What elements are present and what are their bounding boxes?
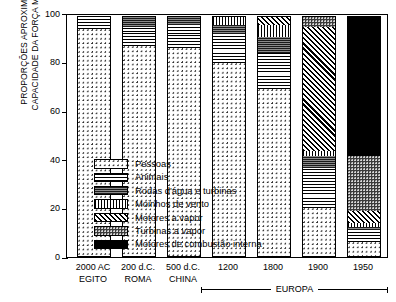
y-tick-mark-0: [62, 258, 68, 259]
bar-segment-animais: [168, 25, 200, 49]
legend-label-combustao-interna: Motores de combustão interna: [135, 239, 262, 249]
y-axis-title-line-1: PROPORÇÕES APROXIMADAS DA: [19, 0, 31, 105]
y-axis-title: PROPORÇÕES APROXIMADAS DA CAPACIDADE DA …: [13, 0, 47, 155]
plot-inner: Pessoas Animais Rodas d'água e turbinas …: [67, 15, 387, 257]
legend-item-pessoas: Pessoas: [94, 157, 340, 170]
y-tick-label-0: 0: [30, 253, 60, 262]
y-tick-label-20: 20: [30, 204, 60, 213]
legend-label-rodas: Rodas d'água e turbinas: [135, 186, 236, 196]
europa-label: EUROPA: [271, 284, 318, 294]
x-label-1950: 1950: [326, 262, 396, 274]
legend-swatch-pessoas-icon: [94, 159, 128, 168]
bar-segment-motores-vapor: [258, 17, 290, 24]
y-tick-label-60: 60: [30, 107, 60, 116]
y-tick-label-100: 100: [30, 10, 60, 19]
bar-segment-animais: [258, 53, 290, 89]
legend-item-moinhos: Moinhos de vento: [94, 197, 340, 210]
legend-swatch-moinhos-icon: [94, 199, 128, 208]
bar-segment-animais: [348, 230, 380, 242]
legend-item-rodas: Rodas d'água e turbinas: [94, 184, 340, 197]
bar-segment-rodas: [348, 227, 380, 229]
bar-segment-pessoas: [348, 242, 380, 256]
bar-segment-animais: [123, 27, 155, 46]
legend-label-moinhos: Moinhos de vento: [135, 199, 209, 209]
legend-label-pessoas: Pessoas: [135, 159, 171, 169]
y-tick-label-80: 80: [30, 58, 60, 67]
bar-segment-animais: [78, 17, 110, 29]
bar-segment-animais: [213, 34, 245, 63]
legend-label-animais: Animais: [135, 172, 168, 182]
bar-segment-rodas: [168, 17, 200, 24]
bar-segment-moinhos: [348, 223, 380, 228]
bar-segment-moinhos: [258, 25, 290, 37]
legend-item-animais: Animais: [94, 171, 340, 184]
europa-label-wrap: EUROPA: [201, 283, 388, 295]
bar-segment-motores-vapor: [303, 27, 335, 151]
bar-segment-turbinas-vapor: [303, 17, 335, 27]
bar-1950: [347, 16, 381, 257]
legend: Pessoas Animais Rodas d'água e turbinas …: [94, 155, 340, 251]
legend-item-turbinas-vapor: Turbinas a vapor: [94, 224, 340, 237]
bar-segment-turbinas-vapor: [348, 156, 380, 211]
bar-segment-rodas: [123, 17, 155, 27]
legend-swatch-motores-vapor-icon: [94, 213, 128, 222]
x-label-1950-line1: 1950: [326, 262, 396, 274]
y-tick-label-40: 40: [30, 156, 60, 165]
legend-item-motores-vapor: Motores a vapor: [94, 211, 340, 224]
legend-swatch-combustao-interna-icon: [94, 240, 128, 249]
legend-label-turbinas-vapor: Turbinas a vapor: [135, 226, 205, 236]
legend-swatch-turbinas-vapor-icon: [94, 226, 128, 235]
bar-segment-motores-vapor: [348, 211, 380, 223]
legend-swatch-rodas-icon: [94, 186, 128, 195]
bar-segment-combustao-interna: [348, 17, 380, 155]
europa-group-annotation: EUROPA: [66, 283, 388, 297]
legend-label-motores-vapor: Motores a vapor: [135, 213, 203, 223]
bar-segment-moinhos: [213, 17, 245, 24]
legend-swatch-animais-icon: [94, 173, 128, 182]
bar-segment-rodas: [213, 25, 245, 35]
bar-segment-rodas: [258, 37, 290, 54]
plot-area: Pessoas Animais Rodas d'água e turbinas …: [66, 14, 388, 258]
legend-item-combustao-interna: Motores de combustão interna: [94, 238, 340, 251]
stacked-bar-chart: PROPORÇÕES APROXIMADAS DA CAPACIDADE DA …: [0, 0, 396, 302]
